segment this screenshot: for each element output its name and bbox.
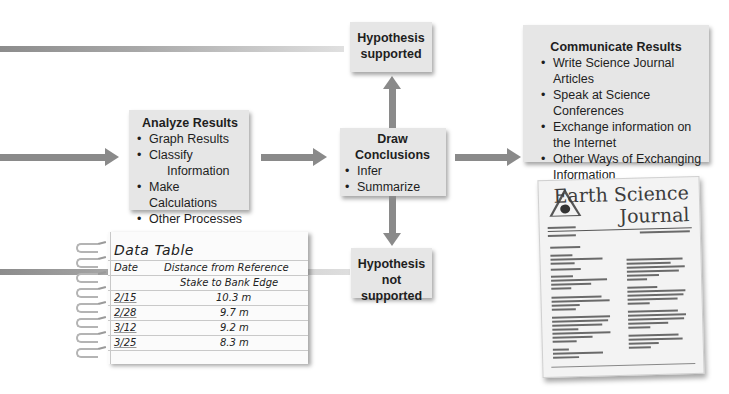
hypothesis-supported-line1: Hypothesis [350,30,432,46]
row-distance: 8.3 m [220,337,249,348]
spiral-ring-icon [76,348,98,358]
draw-conclusions-title-2: Conclusions [343,147,442,163]
list-item: Make Calculations [135,179,245,211]
list-item: Classify Information [135,147,245,179]
notebook-rule [108,260,308,261]
notebook-margin-line [110,232,111,364]
earth-science-journal: Earth Science Journal [537,176,704,378]
spiral-ring-icon [76,318,98,328]
notebook-rule [108,335,308,336]
header-distance-2: Stake to Bank Edge [180,277,278,288]
journal-title: Earth Science Journal [553,181,689,229]
row-date: 3/25 [114,337,136,348]
analyze-results-list: Graph Results Classify Information Make … [135,131,245,227]
journal-footer-rule [551,363,695,368]
communicate-results-box: Communicate Results Write Science Journa… [523,25,709,162]
arrow-down-to-not-supported [389,196,396,233]
list-item: Graph Results [135,131,245,147]
analyze-results-title: Analyze Results [135,115,245,131]
notebook-rule [108,290,308,291]
draw-conclusions-box: Draw Conclusions Infer Summarize [340,128,446,196]
list-item: Infer [343,163,442,179]
header-distance-1: Distance from Reference [164,262,289,273]
list-item: Write Science Journal Articles [539,55,705,87]
data-table-notebook: Data Table Date Distance from Reference … [108,232,308,364]
notebook-rule [108,275,308,276]
arrow-draw-to-communicate [455,154,507,161]
list-item: Exchange information on the Internet [539,119,705,151]
spiral-ring-icon [76,288,98,298]
hypothesis-not-supported-line2: not supported [351,272,432,304]
row-distance: 9.7 m [220,307,249,318]
data-table-title: Data Table [114,242,194,258]
notebook-rule [108,305,308,306]
row-date: 2/28 [114,307,136,318]
analyze-results-box: Analyze Results Graph Results Classify I… [129,110,249,210]
hypothesis-supported-line2: supported [350,46,432,62]
row-date: 3/12 [114,322,136,333]
row-distance: 10.3 m [216,292,251,303]
spiral-ring-icon [76,333,98,343]
spiral-ring-icon [76,258,98,268]
list-item: Speak at Science Conferences [539,87,705,119]
hypothesis-not-supported-line1: Hypothesis [351,256,432,272]
notebook-rule [108,320,308,321]
arrow-analyze-to-draw [261,154,313,161]
notebook-rule [108,350,308,351]
spiral-ring-icon [76,243,98,253]
hypothesis-not-supported-box: Hypothesis not supported [351,248,432,298]
communicate-results-list: Write Science Journal Articles Speak at … [539,55,705,183]
arrow-up-to-supported [389,89,396,128]
spiral-ring-icon [76,303,98,313]
draw-conclusions-list: Infer Summarize [343,163,442,195]
row-distance: 9.2 m [220,322,249,333]
feedback-line-top [0,46,344,52]
header-date: Date [114,262,138,273]
communicate-results-title: Communicate Results [527,39,705,55]
hypothesis-supported-box: Hypothesis supported [350,22,432,72]
spiral-ring-icon [76,273,98,283]
draw-conclusions-title-1: Draw [343,131,442,147]
row-date: 2/15 [114,292,136,303]
arrow-to-analyze [0,154,105,161]
list-item: Other Processes [135,211,245,227]
list-item: Summarize [343,179,442,195]
